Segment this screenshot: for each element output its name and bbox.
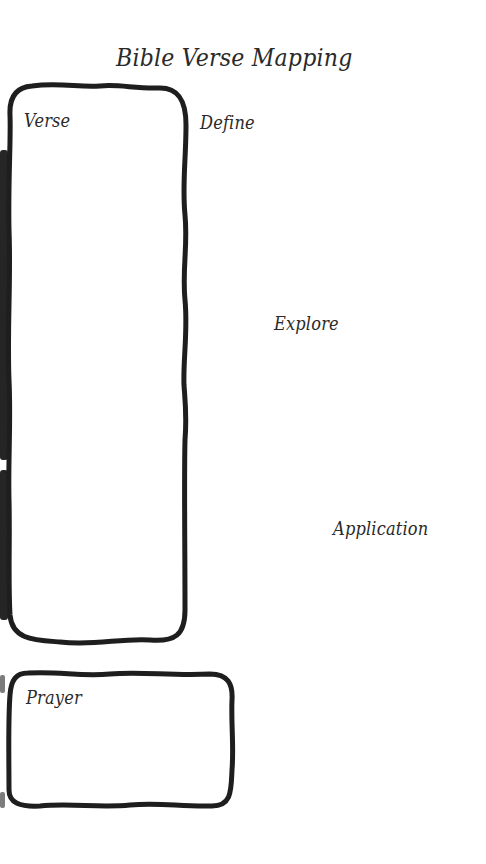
section-label-verse: Verse: [24, 110, 70, 131]
worksheet-page: Bible Verse Mapping Verse Define Explore…: [0, 0, 486, 864]
define-writing-area[interactable]: [196, 140, 466, 305]
section-label-explore: Explore: [274, 313, 339, 334]
section-label-prayer: Prayer: [26, 687, 82, 708]
page-title: Bible Verse Mapping: [116, 44, 352, 72]
application-writing-area[interactable]: [196, 545, 466, 655]
section-label-define: Define: [200, 112, 255, 133]
verse-writing-area[interactable]: [16, 96, 178, 636]
edge-smudges: [0, 150, 8, 808]
explore-writing-area[interactable]: [196, 340, 466, 510]
section-label-application: Application: [333, 518, 428, 539]
